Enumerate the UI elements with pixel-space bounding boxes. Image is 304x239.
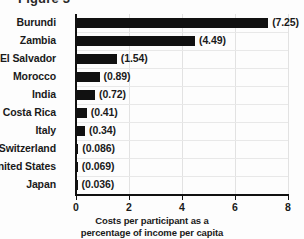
category-label: Italy [0, 124, 56, 136]
bar-value-label: (1.54) [121, 52, 148, 64]
bar-row: (0.34)Italy [76, 122, 288, 140]
bar-chart: (7.25)Burundi(4.49)Zambia(1.54)El Salvad… [0, 10, 304, 239]
category-label: El Salvador [0, 52, 56, 64]
bar-value-label: (0.086) [82, 142, 115, 154]
bar [76, 18, 268, 28]
bar [76, 108, 87, 118]
x-axis-title: Costs per participant as apercentage of … [0, 215, 304, 238]
x-axis-tick-label: 8 [278, 201, 298, 213]
bar [76, 54, 117, 64]
bar [76, 72, 100, 82]
plot-area: (7.25)Burundi(4.49)Zambia(1.54)El Salvad… [76, 14, 288, 194]
category-label: Morocco [0, 70, 56, 82]
gridline-vertical [288, 14, 289, 194]
bar-row: (0.89)Morocco [76, 68, 288, 86]
title-fragment-text: Figure 3 [18, 0, 70, 6]
bar-value-label: (0.72) [99, 88, 126, 100]
category-label: India [0, 88, 56, 100]
x-axis-tick-mark [288, 196, 289, 200]
bar-row: (0.086)Switzerland [76, 140, 288, 158]
x-axis-tick-label: 0 [66, 201, 86, 213]
category-label: United States [0, 160, 56, 172]
cropped-title-fragment: Figure 3 [0, 0, 304, 10]
category-label: Zambia [0, 34, 56, 46]
category-label: Costa Rica [0, 106, 56, 118]
x-axis-tick-label: 4 [172, 201, 192, 213]
x-axis-tick-mark [129, 196, 130, 200]
bar-row: (0.036)Japan [76, 176, 288, 194]
bar-row: (7.25)Burundi [76, 14, 288, 32]
category-label: Burundi [0, 16, 56, 28]
bar-value-label: (0.036) [82, 178, 115, 190]
bar-value-label: (4.49) [199, 34, 226, 46]
bar [76, 90, 95, 100]
bar-row: (0.72)India [76, 86, 288, 104]
x-axis-title-line: Costs per participant as a [0, 215, 304, 227]
y-axis-line [75, 14, 77, 195]
category-label: Japan [0, 178, 56, 190]
x-axis-tick-label: 2 [119, 201, 139, 213]
x-axis-title-line: percentage of income per capita [0, 227, 304, 239]
x-axis-tick-mark [76, 196, 77, 200]
bar-row: (0.41)Costa Rica [76, 104, 288, 122]
bar-row: (1.54)El Salvador [76, 50, 288, 68]
bar-value-label: (0.069) [82, 160, 115, 172]
bar [76, 126, 85, 136]
bar-value-label: (0.89) [104, 70, 131, 82]
category-label: Switzerland [0, 142, 56, 154]
x-axis-tick-mark [182, 196, 183, 200]
bar-value-label: (0.34) [89, 124, 116, 136]
bar-row: (4.49)Zambia [76, 32, 288, 50]
bar-value-label: (0.41) [91, 106, 118, 118]
x-axis-tick-mark [235, 196, 236, 200]
x-axis-tick-label: 6 [225, 201, 245, 213]
bar [76, 36, 195, 46]
bar-value-label: (7.25) [272, 16, 299, 28]
bar-row: (0.069)United States [76, 158, 288, 176]
